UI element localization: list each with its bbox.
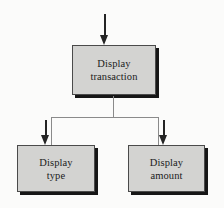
arrow-head xyxy=(100,35,108,45)
node-label-line2: amount xyxy=(150,169,182,182)
node-label-line1: Display xyxy=(150,156,183,169)
node-display-type[interactable]: Display type xyxy=(17,145,95,192)
arrow-down-into-root-icon xyxy=(100,14,109,45)
connector-root-stem xyxy=(113,96,114,118)
arrow-down-into-type-icon xyxy=(41,120,50,145)
node-display-amount[interactable]: Display amount xyxy=(128,145,205,192)
node-label-line2: transaction xyxy=(90,70,137,83)
arrow-shaft xyxy=(104,14,106,35)
node-label-line1: Display xyxy=(97,57,130,70)
node-label-line1: Display xyxy=(39,156,72,169)
arrow-shaft xyxy=(163,120,165,135)
connector-left-leg xyxy=(51,117,52,145)
arrow-down-into-amount-icon xyxy=(159,120,168,145)
diagram-canvas: Display transaction Display type Display… xyxy=(0,0,224,208)
arrow-head xyxy=(159,135,167,145)
arrow-shaft xyxy=(45,120,47,135)
arrow-head xyxy=(41,135,49,145)
connector-horizontal-bus xyxy=(51,117,159,118)
node-label-line2: type xyxy=(47,169,65,182)
node-display-transaction[interactable]: Display transaction xyxy=(72,45,156,95)
